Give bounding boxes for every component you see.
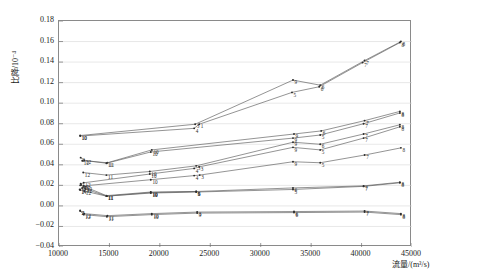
y-tick-label: 0.12 <box>20 77 54 86</box>
svg-text:8: 8 <box>402 126 405 132</box>
svg-text:10: 10 <box>152 151 158 157</box>
svg-text:10: 10 <box>153 214 159 220</box>
x-tick-label: 40000 <box>341 249 381 258</box>
svg-text:7: 7 <box>365 123 368 129</box>
y-tick-label: 0.16 <box>20 36 54 45</box>
x-tick-label: 15000 <box>88 249 128 258</box>
x-tick-label: 30000 <box>240 249 280 258</box>
svg-text:4: 4 <box>196 175 199 181</box>
svg-text:11: 11 <box>109 195 114 201</box>
y-tick-label: 0.08 <box>20 118 54 127</box>
svg-text:4: 4 <box>196 128 199 134</box>
svg-text:10: 10 <box>152 179 158 185</box>
series-S2: 10415678 <box>79 42 404 142</box>
svg-text:10: 10 <box>152 192 158 198</box>
svg-text:12: 12 <box>85 172 91 178</box>
svg-text:5: 5 <box>295 189 298 195</box>
y-tick-label: 0.14 <box>20 56 54 65</box>
svg-text:7: 7 <box>364 62 367 68</box>
svg-text:1: 1 <box>201 123 204 129</box>
svg-text:11: 11 <box>108 162 113 168</box>
series-group: 1039678104156781211109678212111095781211… <box>79 41 406 222</box>
svg-text:8: 8 <box>402 182 405 188</box>
svg-text:11: 11 <box>109 216 114 222</box>
svg-text:12: 12 <box>87 188 93 194</box>
series-S3: 1211109678 <box>81 110 404 168</box>
svg-text:9: 9 <box>295 79 298 85</box>
svg-text:8: 8 <box>403 147 406 153</box>
svg-text:12: 12 <box>85 214 91 220</box>
series-S9: 11211106578 <box>79 182 404 202</box>
svg-text:8: 8 <box>402 112 405 118</box>
svg-text:5: 5 <box>294 92 297 98</box>
svg-text:7: 7 <box>366 211 369 217</box>
y-tick-label: 0.02 <box>20 179 54 188</box>
svg-text:4: 4 <box>196 168 199 174</box>
series-S5: 12111039678 <box>82 124 404 180</box>
x-tick-label: 25000 <box>189 249 229 258</box>
y-tick-label: 0.00 <box>20 200 54 209</box>
svg-text:9: 9 <box>199 212 202 218</box>
svg-text:5: 5 <box>322 134 325 140</box>
series-S7: 21210439578 <box>79 147 405 191</box>
svg-text:5: 5 <box>322 162 325 168</box>
x-tick-label: 20000 <box>139 249 179 258</box>
y-tick-label: 0.06 <box>20 138 54 147</box>
svg-text:7: 7 <box>366 154 369 160</box>
svg-text:8: 8 <box>402 42 405 48</box>
x-axis-title: 流量/(m³/s) <box>392 258 430 269</box>
svg-text:6: 6 <box>296 212 299 218</box>
svg-text:9: 9 <box>198 191 201 197</box>
svg-text:8: 8 <box>403 214 406 220</box>
y-tick-label: 0.10 <box>20 97 54 106</box>
svg-text:6: 6 <box>321 86 324 92</box>
svg-text:9: 9 <box>295 161 298 167</box>
series-S10: 21211103678 <box>79 210 405 221</box>
svg-text:7: 7 <box>365 137 368 143</box>
y-axis-title: 比降/10⁻⁴ <box>9 36 20 100</box>
y-tick-label: 0.18 <box>20 15 54 24</box>
x-tick-label: 45000 <box>391 249 431 258</box>
svg-text:3: 3 <box>201 174 204 180</box>
svg-text:3: 3 <box>201 166 204 172</box>
svg-text:10: 10 <box>82 135 88 141</box>
svg-text:5: 5 <box>322 149 325 155</box>
plot-area: 1039678104156781211109678212111095781211… <box>58 20 411 246</box>
svg-text:12: 12 <box>86 159 92 165</box>
svg-text:9: 9 <box>295 147 298 153</box>
y-tick-label: −0.02 <box>20 220 54 229</box>
x-tick-label: 10000 <box>38 249 78 258</box>
chart-container: 比降/10⁻⁴ 流量/(m³/s) −0.04−0.020.000.020.04… <box>0 0 487 276</box>
plot-svg: 1039678104156781211109678212111095781211… <box>59 21 412 247</box>
y-tick-label: 0.04 <box>20 159 54 168</box>
svg-text:7: 7 <box>365 186 368 192</box>
x-tick-label: 35000 <box>290 249 330 258</box>
